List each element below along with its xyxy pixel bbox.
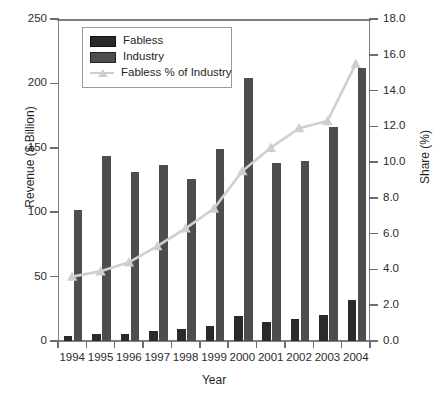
bar-industry xyxy=(74,210,83,341)
bar-industry xyxy=(216,149,225,341)
chart-container: 050100150200250 0.02.04.06.08.010.012.01… xyxy=(0,0,442,397)
bar-fabless xyxy=(64,336,73,341)
legend-item-fabless: Fabless xyxy=(90,33,224,49)
y-axis-left-tick-label: 50 xyxy=(34,271,47,283)
bar-fabless xyxy=(234,316,243,341)
y-axis-left-tick-label: 0 xyxy=(41,335,47,347)
bar-fabless xyxy=(121,334,130,341)
y-axis-right-tick xyxy=(369,90,378,92)
y-axis-right-tick xyxy=(369,233,378,235)
x-axis-tick xyxy=(171,341,173,348)
y-axis-right-tick-label: 14.0 xyxy=(383,85,405,97)
legend-label-fabless-share: Fabless % of Industry xyxy=(121,67,232,79)
y-axis-left-tick-label: 250 xyxy=(28,13,47,25)
y-axis-right-tick xyxy=(369,197,378,199)
bar-fabless xyxy=(319,315,328,341)
bar-fabless xyxy=(177,329,186,341)
bar-industry xyxy=(329,127,338,341)
y-axis-right-tick-label: 6.0 xyxy=(383,228,399,240)
y-axis-right-tick xyxy=(369,54,378,56)
y-axis-right-tick-label: 18.0 xyxy=(383,13,405,25)
x-axis-title: Year xyxy=(58,373,370,387)
bar-industry xyxy=(131,172,140,341)
x-axis-tick xyxy=(57,341,59,348)
legend-item-fabless-share: Fabless % of Industry xyxy=(90,65,224,81)
bar-industry xyxy=(187,179,196,341)
y-axis-right-tick-label: 8.0 xyxy=(383,192,399,204)
bar-fabless xyxy=(262,322,271,341)
x-axis-tick xyxy=(227,341,229,348)
y-axis-right-tick xyxy=(369,161,378,163)
legend-label-industry: Industry xyxy=(123,51,164,63)
legend-swatch-industry-icon xyxy=(90,52,116,63)
x-axis-tick xyxy=(86,341,88,348)
bar-fabless xyxy=(348,300,357,341)
y-axis-right-tick-label: 2.0 xyxy=(383,299,399,311)
x-axis-tick xyxy=(256,341,258,348)
legend-label-fabless: Fabless xyxy=(123,35,163,47)
y-axis-left-title: Revenue ($ Billion) xyxy=(23,67,37,247)
bar-fabless xyxy=(206,326,215,341)
y-axis-right-tick xyxy=(369,18,378,20)
bar-fabless xyxy=(92,334,101,341)
legend-swatch-line-marker-icon xyxy=(90,68,114,78)
y-axis-right-tick xyxy=(369,126,378,128)
bar-fabless xyxy=(149,331,158,341)
legend-item-industry: Industry xyxy=(90,49,224,65)
x-axis-tick xyxy=(341,341,343,348)
y-axis-right-tick xyxy=(369,304,378,306)
bar-industry xyxy=(272,163,281,341)
bar-industry xyxy=(159,165,168,341)
legend-swatch-fabless-icon xyxy=(90,36,116,47)
x-axis-tick xyxy=(199,341,201,348)
bar-industry xyxy=(102,156,111,341)
x-axis-tick xyxy=(284,341,286,348)
bar-industry xyxy=(358,68,367,341)
y-axis-right-tick-label: 0.0 xyxy=(383,335,399,347)
y-axis-right-title: Share (%) xyxy=(418,67,432,247)
y-axis-right-tick xyxy=(369,269,378,271)
y-axis-right-tick-label: 16.0 xyxy=(383,49,405,61)
x-axis-tick xyxy=(114,341,116,348)
y-axis-right-tick-label: 4.0 xyxy=(383,263,399,275)
x-axis-tick-label: 2004 xyxy=(338,352,374,364)
y-axis-right-tick-label: 10.0 xyxy=(383,156,405,168)
bar-industry xyxy=(301,161,310,341)
bar-fabless xyxy=(291,319,300,341)
x-axis-tick xyxy=(313,341,315,348)
x-axis-tick xyxy=(369,341,371,348)
bar-industry xyxy=(244,78,253,341)
x-axis-tick xyxy=(142,341,144,348)
chart-legend: Fabless Industry Fabless % of Industry xyxy=(82,27,232,88)
y-axis-right-tick-label: 12.0 xyxy=(383,120,405,132)
